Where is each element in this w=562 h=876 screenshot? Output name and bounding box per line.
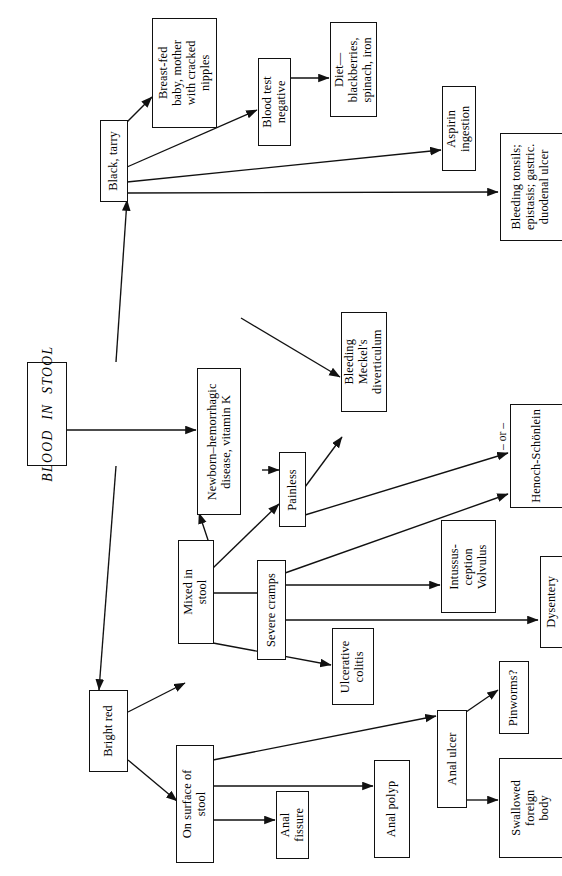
node-anal-polyp[interactable]: Anal polyp	[374, 760, 410, 858]
node-bright-red[interactable]: Bright red	[89, 690, 128, 772]
node-newborn-hemorrhagic[interactable]: Newborn–hemorrhagic disease, vitamin K	[197, 368, 241, 515]
node-henoch-schonlein[interactable]: Henoch-Schönlein	[510, 404, 562, 508]
node-label: Bleeding Meckel's diverticulum	[343, 330, 385, 395]
node-intussusception[interactable]: Intussus- ception Volvulus	[441, 520, 496, 613]
node-label: Diet— blackberries, spinach, iron	[333, 37, 375, 102]
node-label: On surface of stool	[181, 770, 209, 839]
node-breast-fed[interactable]: Breast-fed baby, mother with cracked nip…	[152, 18, 217, 128]
node-label: Swallowed foreign body	[510, 780, 552, 836]
node-bleeding-meckel[interactable]: Bleeding Meckel's diverticulum	[341, 312, 387, 412]
node-anal-ulcer[interactable]: Anal ulcer	[437, 710, 467, 808]
node-label: Breast-fed baby, mother with cracked nip…	[157, 40, 213, 106]
node-severe-cramps[interactable]: Severe cramps	[257, 560, 286, 660]
node-label: Dysentery	[545, 576, 559, 628]
node-label: Pinworms?	[507, 669, 521, 726]
node-label: Ulcerative colitis	[339, 640, 367, 693]
node-ulcerative-colitis[interactable]: Ulcerative colitis	[332, 628, 374, 705]
node-label: Henoch-Schönlein	[530, 409, 544, 503]
node-painless[interactable]: Painless	[279, 452, 306, 527]
node-label: Aspirin ingestion	[445, 105, 473, 151]
or-label-text: – or –	[497, 422, 510, 449]
node-swallowed-foreign-body[interactable]: Swallowed foreign body	[499, 758, 562, 858]
node-label: Painless	[286, 469, 300, 510]
node-label: Blood test negative	[261, 76, 289, 128]
node-diet[interactable]: Diet— blackberries, spinach, iron	[330, 22, 377, 117]
node-label: Black, tarry	[107, 131, 121, 191]
node-label: Severe cramps	[265, 573, 279, 647]
node-label: Newborn–hemorrhagic disease, vitamin K	[205, 383, 233, 500]
node-anal-fissure[interactable]: Anal fissure	[276, 791, 309, 859]
node-label: Bleeding tonsils; epistasis; gastric. du…	[511, 144, 553, 231]
node-pinworms[interactable]: Pinworms?	[499, 661, 529, 734]
node-blood-in-stool[interactable]: BLOOD IN STOOL	[27, 362, 67, 466]
node-label: Anal ulcer	[445, 733, 459, 786]
node-bleeding-tonsils[interactable]: Bleeding tonsils; epistasis; gastric. du…	[500, 133, 562, 241]
node-label: Anal polyp	[385, 781, 399, 837]
flowchart-canvas: BLOOD IN STOOL Black, tarry Breast-fed b…	[0, 0, 562, 876]
node-label: Intussus- ception Volvulus	[448, 544, 490, 590]
node-mixed-in-stool[interactable]: Mixed in stool	[178, 540, 214, 644]
node-label: BLOOD IN STOOL	[39, 346, 54, 482]
node-label: Mixed in stool	[182, 569, 210, 615]
node-label: Anal fissure	[279, 808, 307, 842]
node-dysentery[interactable]: Dysentery	[540, 556, 562, 648]
node-label: Bright red	[102, 705, 116, 757]
node-blood-test-negative[interactable]: Blood test negative	[258, 58, 291, 146]
node-aspirin-ingestion[interactable]: Aspirin ingestion	[442, 86, 476, 171]
node-on-surface-of-stool[interactable]: On surface of stool	[176, 745, 214, 863]
node-black-tarry[interactable]: Black, tarry	[100, 120, 128, 202]
